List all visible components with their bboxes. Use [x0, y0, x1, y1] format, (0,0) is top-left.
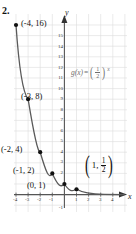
y-tick-4: 4: [55, 149, 63, 154]
y-tick-9: 9: [55, 96, 63, 101]
right-paren: ): [108, 157, 113, 173]
x-tick-4: 4: [111, 197, 114, 202]
right-paren: ): [102, 69, 105, 76]
x-tick-1: 1: [75, 197, 78, 202]
y-tick-13: 13: [55, 54, 63, 59]
one-half-fraction: 1 2: [101, 157, 107, 173]
y-tick-6: 6: [55, 128, 63, 133]
x-axis-label: x: [128, 192, 132, 201]
point-label-neg4-16: (-4, 16): [21, 19, 47, 28]
base-fraction: 1 2: [95, 66, 100, 79]
y-tick-14: 14: [55, 44, 63, 49]
left-paren: (: [85, 157, 90, 173]
x-tick-3: 3: [99, 197, 102, 202]
x-tick-neg-4: -4: [13, 197, 17, 202]
point-label-neg3-8: (-3, 8): [21, 92, 42, 101]
function-equation-label: g(x) = ( 1 2 ) x: [71, 66, 110, 79]
y-tick-neg-1: -1: [54, 205, 63, 210]
x-tick-2: 2: [87, 197, 90, 202]
data-point: [14, 23, 18, 27]
y-tick-3: 3: [55, 159, 63, 164]
exercise-number: 2.: [2, 5, 10, 16]
point-label-neg2-4: (-2, 4): [1, 145, 22, 154]
function-name: g(x): [71, 68, 83, 77]
y-tick-15: 15: [55, 33, 63, 38]
y-tick-2: 2: [55, 170, 63, 175]
equals-sign: =: [84, 68, 88, 77]
x-tick-neg-3: -3: [25, 197, 29, 202]
point-label-1-one-half: ( 1 , 1 2 ): [83, 157, 115, 173]
exponent: x: [107, 66, 109, 72]
data-point: [50, 171, 54, 175]
point-label-0-1: (0, 1): [27, 181, 45, 190]
y-tick-7: 7: [55, 117, 63, 122]
data-point: [38, 150, 42, 154]
y-tick-8: 8: [55, 107, 63, 112]
y-tick-5: 5: [55, 138, 63, 143]
left-paren: (: [90, 69, 93, 76]
point-label-neg1-2: (-1, 2): [13, 166, 34, 175]
data-point: [62, 182, 66, 186]
y-tick-11: 11: [55, 75, 63, 80]
y-axis-label: y: [65, 8, 69, 17]
exponential-decay-figure: 2.: [0, 0, 136, 234]
y-tick-12: 12: [55, 65, 63, 70]
x-tick-neg-1: -1: [49, 197, 53, 202]
x-tick-neg-2: -2: [37, 197, 41, 202]
y-tick-10: 10: [55, 86, 63, 91]
data-point: [74, 187, 78, 191]
